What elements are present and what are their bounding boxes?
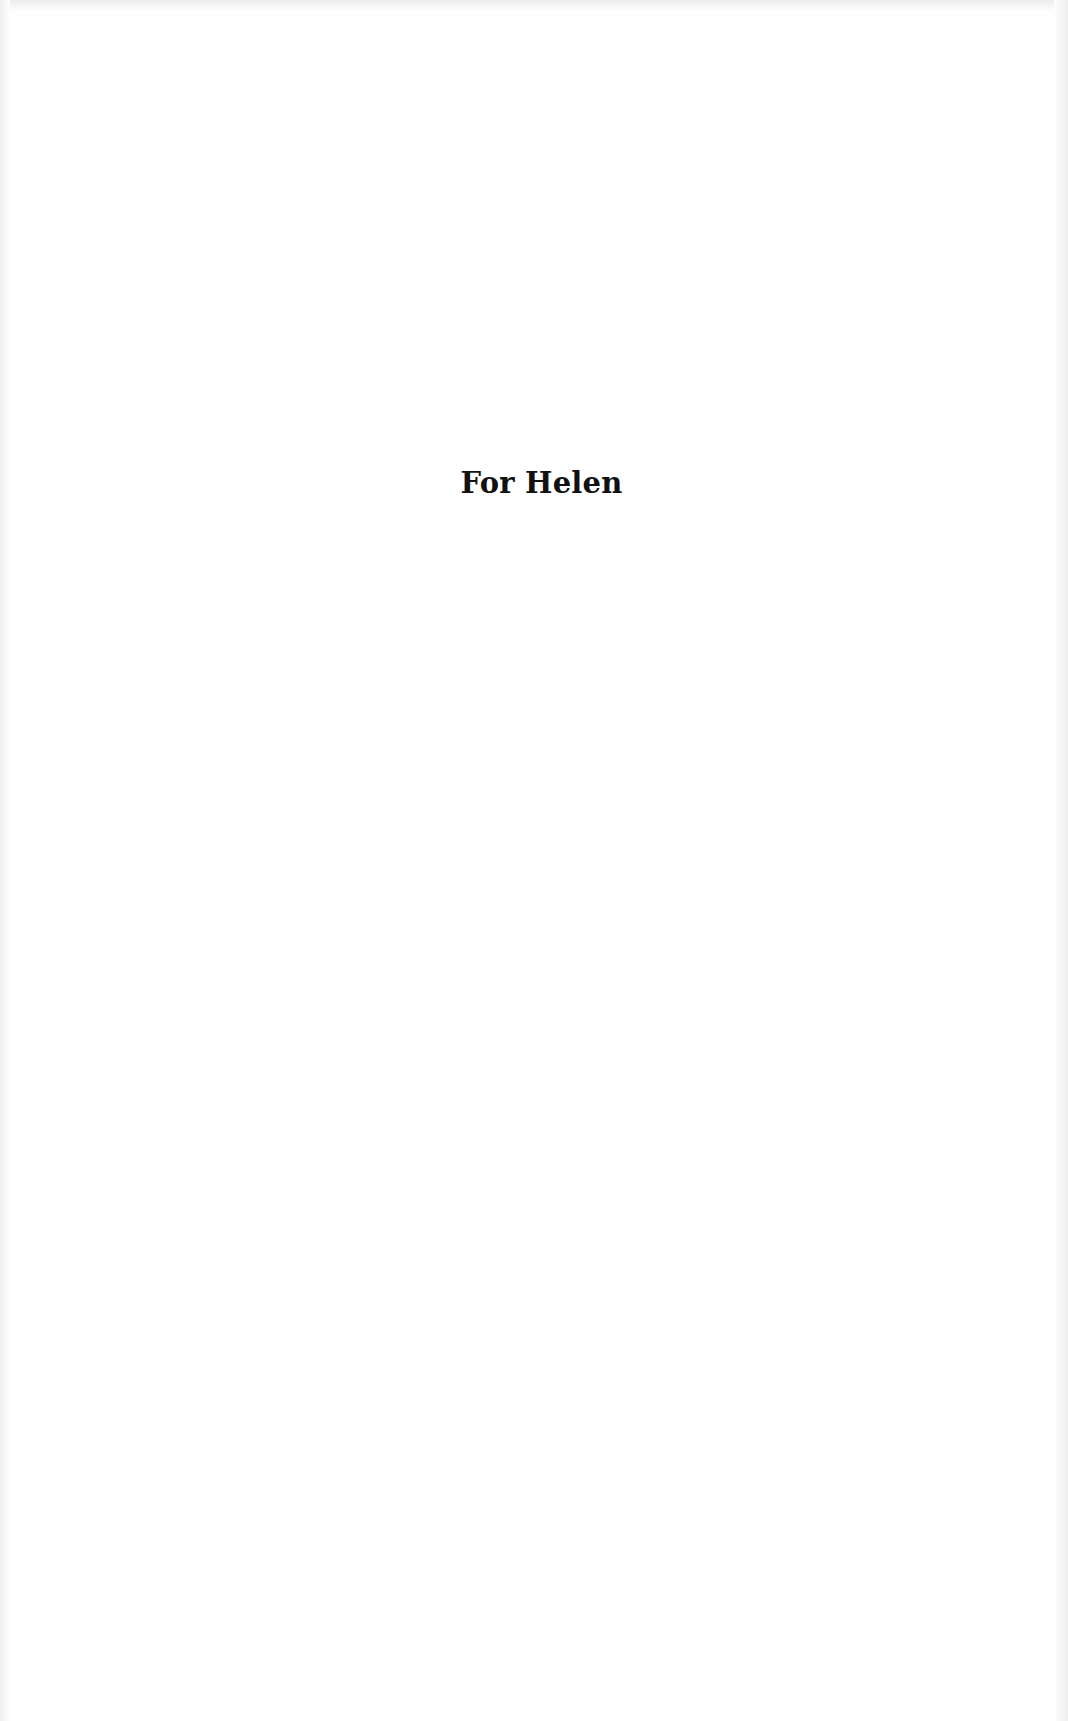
scan-edge-right [1054,0,1068,1721]
scan-edge-left [0,0,10,1721]
dedication-text: For Helen [0,466,1068,500]
book-page: For Helen [0,0,1068,1721]
scan-edge-top [0,0,1068,12]
